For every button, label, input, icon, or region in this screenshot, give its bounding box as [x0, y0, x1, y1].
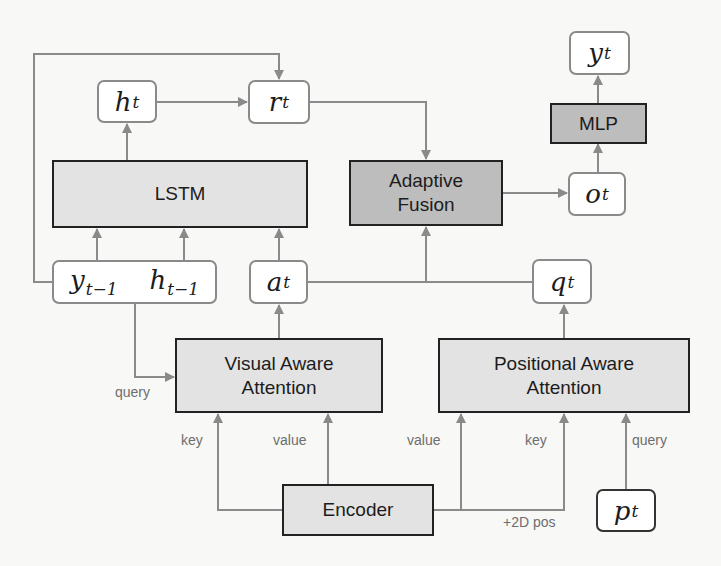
- label-visual-query: query: [115, 384, 150, 400]
- label-2d-pos: +2D pos: [503, 514, 556, 530]
- block-adaptive-fusion: Adaptive Fusion: [349, 160, 503, 226]
- visual-attention-label-2: Attention: [242, 376, 317, 400]
- label-positional-query: query: [632, 432, 667, 448]
- p-t-base: p: [614, 496, 631, 526]
- y-prev-base: y: [70, 265, 85, 295]
- label-positional-key: key: [525, 432, 547, 448]
- block-mlp: MLP: [550, 103, 647, 144]
- positional-attention-label-2: Attention: [527, 376, 602, 400]
- h-prev-sub: t−1: [167, 279, 199, 299]
- y-t-base: y: [588, 38, 603, 68]
- block-positional-aware-attention: Positional Aware Attention: [438, 338, 690, 413]
- node-o-t: ot: [568, 172, 626, 216]
- y-prev: yt−1: [70, 265, 118, 299]
- adaptive-fusion-label-2: Fusion: [397, 193, 454, 217]
- node-a-t: at: [249, 260, 308, 304]
- architecture-diagram: ht rt yt ot yt−1 ht−1 at qt pt LSTM Adap…: [0, 0, 721, 566]
- r-t-base: r: [269, 87, 281, 117]
- block-lstm: LSTM: [52, 160, 308, 228]
- r-t-sub: t: [282, 92, 289, 112]
- node-h-t: ht: [97, 80, 157, 123]
- o-t-base: o: [585, 179, 601, 209]
- p-t-sub: t: [631, 501, 638, 521]
- y-prev-sub: t−1: [86, 279, 118, 299]
- lstm-label: LSTM: [155, 182, 206, 206]
- block-encoder: Encoder: [282, 484, 434, 536]
- label-visual-key: key: [181, 432, 203, 448]
- h-t-base: h: [115, 87, 132, 117]
- positional-attention-label-1: Positional Aware: [494, 352, 634, 376]
- mlp-label: MLP: [579, 112, 618, 136]
- h-t-sub: t: [132, 92, 139, 112]
- a-t-base: a: [267, 267, 283, 297]
- node-q-t: qt: [532, 259, 592, 304]
- a-t-sub: t: [283, 272, 290, 292]
- label-positional-value: value: [407, 432, 440, 448]
- node-y-t: yt: [569, 31, 630, 75]
- label-visual-value: value: [273, 432, 306, 448]
- h-prev: ht−1: [149, 265, 199, 299]
- o-t-sub: t: [602, 184, 609, 204]
- adaptive-fusion-label-1: Adaptive: [389, 169, 463, 193]
- y-t-sub: t: [604, 43, 611, 63]
- q-t-sub: t: [567, 272, 574, 292]
- q-t-base: q: [550, 267, 567, 297]
- node-prev-state: yt−1 ht−1: [52, 260, 217, 304]
- block-visual-aware-attention: Visual Aware Attention: [175, 338, 383, 413]
- h-prev-base: h: [149, 265, 166, 295]
- encoder-label: Encoder: [323, 498, 394, 522]
- node-p-t: pt: [596, 489, 656, 532]
- visual-attention-label-1: Visual Aware: [224, 352, 333, 376]
- node-r-t: rt: [248, 80, 310, 124]
